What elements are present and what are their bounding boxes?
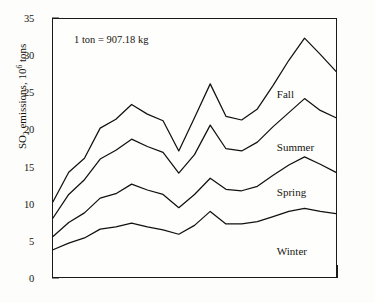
y-axis-tick-label: 0 xyxy=(29,273,34,284)
series-label-summer: Summer xyxy=(277,141,314,153)
y-axis-tick-label: 20 xyxy=(24,124,34,135)
series-label-spring: Spring xyxy=(277,186,306,198)
series-line-fall xyxy=(53,38,336,202)
series-line-winter xyxy=(53,208,336,249)
y-axis-tick-label: 5 xyxy=(29,235,34,246)
y-axis-title-pre: SO xyxy=(16,135,28,149)
y-axis-title-mid: emissions, 10 xyxy=(16,69,28,132)
unit-annotation: 1 ton = 907.18 kg xyxy=(74,34,148,45)
y-axis-title-sup: 6 xyxy=(15,65,24,69)
y-axis-tick-label: 35 xyxy=(24,13,34,24)
x-axis-tick-mark xyxy=(337,265,338,278)
series-label-fall: Fall xyxy=(277,88,294,100)
series-label-winter: Winter xyxy=(277,245,307,257)
y-axis-tick-label: 10 xyxy=(24,198,34,209)
y-axis-tick-label: 30 xyxy=(24,50,34,61)
y-axis-tick-label: 25 xyxy=(24,87,34,98)
y-axis-tick-label: 15 xyxy=(24,161,34,172)
chart-figure: SO2 emissions, 106 tons 05101520253035 1… xyxy=(0,0,375,303)
